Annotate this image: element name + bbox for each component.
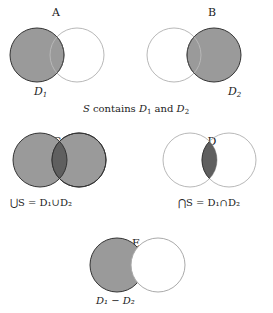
panel-a-label: A (51, 6, 61, 19)
panel-d: D ⋂S = D₁∩D₂ (163, 133, 256, 209)
caption-union: ⋃S = D₁∪D₂ (10, 197, 72, 208)
panel-e: E D₁ − D₂ (90, 237, 185, 306)
panel-b: B D2 (147, 6, 242, 99)
panel-b-label: B (208, 6, 216, 19)
s-contains-caption: S contains D1 and D2 (83, 103, 189, 116)
caption-difference: D₁ − D₂ (95, 295, 135, 306)
panel-a: A D1 (10, 6, 104, 99)
set-d1-circle-shaded (10, 28, 64, 82)
set-d2-circle-shaded (187, 28, 241, 82)
caption-intersection: ⋂S = D₁∩D₂ (178, 197, 240, 209)
venn-diagrams: A D1 B D2 S contains D1 and D2 C ⋃S = D₁… (0, 0, 273, 313)
caption-d1: D1 (33, 85, 47, 99)
caption-d2: D2 (227, 85, 242, 99)
set-d2-circle-cutout (131, 238, 185, 292)
panel-c: C ⋃S = D₁∪D₂ (10, 133, 106, 208)
